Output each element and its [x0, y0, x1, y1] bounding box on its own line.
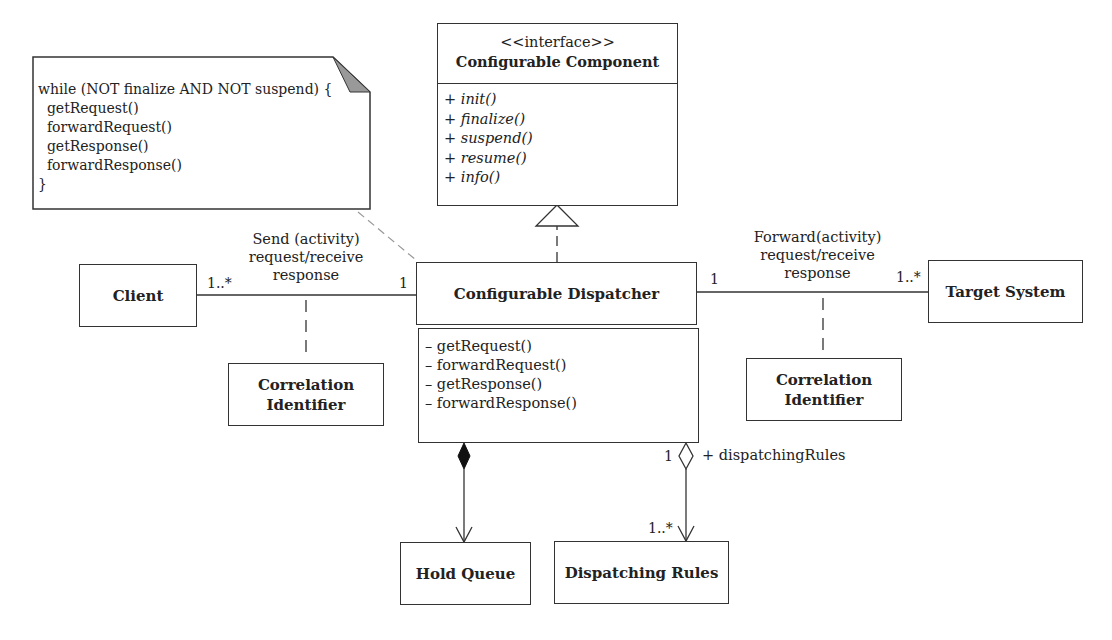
mult-dispatcher-right: 1 [710, 271, 719, 287]
class-configurable-dispatcher[interactable]: Configurable Dispatcher [416, 262, 697, 325]
target-name: Target System [946, 282, 1066, 302]
composition-diamond-icon [458, 443, 470, 469]
correlation-right-line2: Identifier [785, 390, 864, 410]
correlation-left-line2: Identifier [267, 395, 346, 415]
class-correlation-identifier-left[interactable]: Correlation Identifier [228, 363, 384, 426]
correlation-right-line1: Correlation [776, 370, 872, 390]
mult-aggregation-target: 1..* [648, 520, 673, 536]
operation-get-request: – getRequest() [425, 337, 698, 356]
operation-init: + init() [444, 90, 533, 110]
operation-suspend: + suspend() [444, 129, 533, 149]
interface-name: Configurable Component [438, 52, 677, 72]
assoc-left-label-line3: response [236, 266, 376, 284]
dispatcher-operations: – getRequest() – forwardRequest() – getR… [418, 328, 699, 443]
class-correlation-identifier-right[interactable]: Correlation Identifier [746, 358, 902, 421]
realization-triangle-icon [536, 205, 578, 226]
operation-resume: + resume() [444, 149, 533, 169]
class-target-system[interactable]: Target System [928, 260, 1083, 323]
mult-client: 1..* [207, 275, 232, 291]
aggregation-role: + dispatchingRules [702, 447, 846, 463]
assoc-right-label-line2: request/receive [740, 246, 895, 264]
dispatching-rules-name: Dispatching Rules [565, 563, 719, 583]
operation-forward-request: – forwardRequest() [425, 356, 698, 375]
interface-configurable-component[interactable]: <<interface>> Configurable Component + i… [437, 23, 678, 206]
mult-aggregation-source: 1 [664, 448, 673, 464]
assoc-left-label-line1: Send (activity) [236, 230, 376, 248]
assoc-left-label: Send (activity) request/receive response [236, 230, 376, 284]
assoc-right-label-line3: response [740, 264, 895, 282]
operation-get-response: – getResponse() [425, 375, 698, 394]
interface-header: <<interface>> Configurable Component [438, 24, 677, 84]
class-dispatching-rules[interactable]: Dispatching Rules [554, 541, 729, 604]
interface-stereotype: <<interface>> [438, 32, 677, 52]
dispatcher-name: Configurable Dispatcher [454, 284, 660, 304]
hold-queue-name: Hold Queue [416, 564, 516, 584]
client-name: Client [113, 286, 164, 306]
class-hold-queue[interactable]: Hold Queue [400, 542, 531, 605]
operation-forward-response: – forwardResponse() [425, 394, 698, 413]
mult-target: 1..* [896, 269, 921, 285]
correlation-left-line1: Correlation [258, 375, 354, 395]
interface-operations: + init() + finalize() + suspend() + resu… [444, 90, 533, 188]
mult-dispatcher-left: 1 [399, 275, 408, 291]
class-client[interactable]: Client [79, 264, 197, 327]
assoc-right-label-line1: Forward(activity) [740, 228, 895, 246]
operation-finalize: + finalize() [444, 110, 533, 130]
aggregation-diamond-icon [679, 443, 693, 469]
assoc-right-label: Forward(activity) request/receive respon… [740, 228, 895, 282]
assoc-left-label-line2: request/receive [236, 248, 376, 266]
note-text: while (NOT finalize AND NOT suspend) { g… [38, 80, 332, 194]
operation-info: + info() [444, 168, 533, 188]
